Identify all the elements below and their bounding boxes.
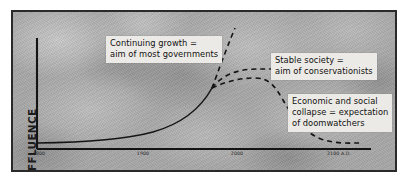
y-axis-label: AFFLUENCE — [31, 40, 45, 144]
callout-continuing-growth: Continuing growth = aim of most governme… — [106, 36, 222, 63]
series-historical-growth — [37, 88, 212, 143]
callout-continuing-growth-line2: aim of most governments — [110, 49, 218, 60]
x-tick-1800: 1800 — [33, 151, 45, 156]
callout-continuing-growth-line1: Continuing growth = — [110, 38, 218, 49]
callout-stable-society-line2: aim of conservationists — [275, 66, 373, 77]
callout-stable-society-line1: Stable society = — [275, 55, 373, 66]
callout-stable-society: Stable society = aim of conservationists — [271, 53, 377, 80]
callout-economic-collapse-line1: Economic and social — [292, 96, 388, 107]
x-tick-1900: 1900 — [137, 151, 149, 156]
y-axis-label-text: AFFLUENCE — [26, 109, 38, 172]
callout-economic-collapse-line2: collapse = expectation — [292, 107, 388, 118]
figure-frame: AFFLUENCE 1800 1900 2000 2100 A.D. Conti… — [11, 10, 397, 172]
x-tick-2000: 2000 — [231, 151, 243, 156]
callout-economic-collapse: Economic and social collapse = expectati… — [288, 94, 392, 132]
x-tick-2100: 2100 A.D. — [327, 151, 351, 156]
callout-economic-collapse-line3: of doomwatchers — [292, 118, 388, 129]
